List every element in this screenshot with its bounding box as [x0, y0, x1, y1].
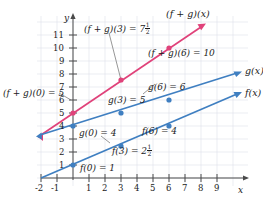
leader-line-fg3	[109, 33, 121, 80]
annotation-g-at-6: g(6) = 6	[148, 83, 186, 92]
x-tick-label-7: 7	[182, 184, 187, 193]
x-tick-label-3: 3	[118, 184, 123, 193]
fraction-denominator: 2	[145, 29, 150, 35]
x-tick-label-8: 8	[198, 184, 203, 193]
function-sum-graph-figure: y x 11 10 9 8 7 6 5 4 3 2 1 -2 -1 1 2 3 …	[0, 0, 263, 210]
x-tick-label-5: 5	[150, 184, 155, 193]
fraction-denominator: 2	[147, 151, 152, 157]
y-tick-label-9: 9	[59, 57, 64, 66]
g-point-3	[118, 110, 123, 115]
annotation-sum-curve-name: (f + g)(x)	[166, 9, 210, 19]
y-axis-label: y	[64, 14, 69, 23]
y-axis-arrow	[70, 13, 75, 19]
x-axis-label: x	[238, 186, 243, 195]
annotation-f-curve-name: f(x)	[245, 88, 261, 98]
y-tick-label-11: 11	[53, 31, 64, 40]
annotation-sum-at-0: (f + g)(0) = 5	[3, 89, 64, 98]
x-tick-label-4: 4	[134, 184, 139, 193]
y-tick-label-10: 10	[53, 44, 64, 53]
x-tick-label-neg1: -1	[51, 184, 59, 193]
g-point-6	[166, 97, 171, 102]
annotation-sum-at-3-text: (f + g)(3) = 7	[84, 24, 145, 34]
sum-point-3	[118, 77, 123, 82]
y-tick-label-4: 4	[59, 122, 64, 131]
x-tick-label-6: 6	[166, 184, 171, 193]
y-tick-label-2: 2	[59, 148, 64, 157]
x-tick-label-9: 9	[214, 184, 219, 193]
x-tick-label-neg2: -2	[35, 184, 43, 193]
g-line-left-arrow	[36, 133, 42, 140]
fraction-one-half: 12	[145, 22, 150, 35]
y-tick-label-5: 5	[59, 109, 64, 118]
x-tick-label-1: 1	[86, 184, 91, 193]
annotation-f-at-3-text: f(3) = 2	[112, 146, 147, 156]
x-tick-label-2: 2	[102, 184, 107, 193]
x-axis-arrow	[243, 175, 249, 180]
sum-point-0	[70, 110, 75, 115]
annotation-sum-at-6: (f + g)(6) = 10	[148, 49, 215, 58]
f-point-0	[70, 162, 75, 167]
annotation-g-at-0: g(0) = 4	[79, 129, 117, 138]
annotation-f-at-3: f(3) = 212	[112, 144, 152, 157]
annotation-g-at-3: g(3) = 5	[108, 96, 146, 105]
annotation-g-curve-name: g(x)	[245, 66, 263, 76]
f-line-segment	[41, 94, 237, 178]
annotation-sum-at-3: (f + g)(3) = 712	[84, 22, 150, 35]
annotation-f-at-6: f(6) = 4	[142, 127, 177, 136]
y-tick-label-1: 1	[59, 161, 64, 170]
y-tick-label-3: 3	[59, 135, 64, 144]
fraction-one-half: 12	[147, 144, 152, 157]
annotation-f-at-0: f(0) = 1	[80, 164, 115, 173]
g-point-0	[70, 123, 75, 128]
y-tick-label-8: 8	[59, 70, 64, 79]
